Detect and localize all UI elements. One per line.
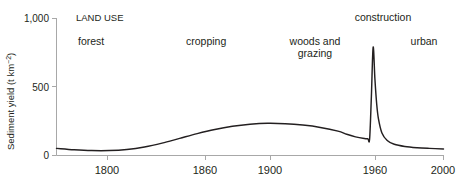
y-axis-title-close: ) — [5, 53, 16, 56]
x-tick-label-1800: 1800 — [95, 164, 119, 176]
sediment-yield-curve — [57, 47, 444, 151]
phase-label-woods-and-grazing-line2: grazing — [298, 47, 333, 59]
y-axis-title: Sediment yield (t km−2) — [5, 53, 16, 150]
y-tick-label-1000: 1,000 — [24, 13, 49, 24]
x-tick-label-1860: 1860 — [193, 164, 217, 176]
y-tick-label-0: 0 — [43, 150, 49, 161]
sediment-yield-chart: Sediment yield (t km−2) 1,000 500 0 1800… — [0, 0, 469, 185]
x-tick-label-2000: 2000 — [431, 164, 455, 176]
y-axis-title-superscript: −2 — [5, 56, 12, 64]
x-tick-label-1960: 1960 — [363, 164, 387, 176]
phase-label-forest: forest — [78, 35, 104, 47]
phase-label-construction: construction — [355, 11, 412, 23]
phase-label-woods-and-grazing-line1: woods and — [289, 35, 341, 47]
land-use-heading: LAND USE — [76, 12, 124, 23]
y-axis-title-main: Sediment yield (t km — [5, 64, 16, 150]
phase-label-cropping: cropping — [186, 35, 226, 47]
phase-label-urban: urban — [411, 35, 438, 47]
y-tick-label-500: 500 — [32, 82, 49, 93]
x-tick-label-1900: 1900 — [258, 164, 282, 176]
